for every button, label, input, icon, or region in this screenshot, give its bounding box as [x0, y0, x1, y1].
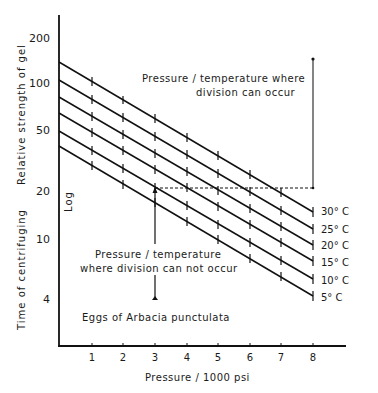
annotation-cannot-occur-line1: Pressure / temperature	[95, 249, 221, 260]
y-axis-title-upper: Relative strength of gel	[16, 44, 27, 185]
x-axis-title: Pressure / 1000 psi	[145, 372, 250, 383]
arrow-tail-icon	[312, 187, 315, 190]
legend-label-20c: 20° C	[321, 240, 349, 251]
line-25c	[59, 80, 313, 229]
species-label: Eggs of Arbacia punctulata	[82, 312, 230, 323]
line-30c	[59, 62, 313, 212]
annotation-can-occur-line1: Pressure / temperature where	[142, 73, 305, 84]
x-tick-label: 2	[116, 352, 130, 363]
annotation-can-occur-line2: division can occur	[196, 87, 295, 98]
x-tick-label: 6	[243, 352, 257, 363]
y-tick-label: 200	[20, 32, 50, 45]
arrow-head-icon	[152, 296, 158, 300]
chart-plot-area	[0, 0, 378, 393]
arrow-head-icon	[311, 57, 314, 60]
x-tick-label: 8	[306, 352, 320, 363]
line-15c	[59, 113, 313, 261]
legend-label-25c: 25° C	[321, 224, 349, 235]
x-tick-label: 3	[148, 352, 162, 363]
y-tick-label: 20	[20, 185, 50, 198]
y-axis-log-label: Log	[63, 191, 74, 212]
legend-label-15c: 15° C	[321, 257, 349, 268]
x-tick-label: 7	[274, 352, 288, 363]
legend-label-10c: 10° C	[321, 275, 349, 286]
x-tick-label: 5	[211, 352, 225, 363]
line-20c	[59, 97, 313, 245]
annotation-cannot-occur-line2: where division can not occur	[80, 263, 238, 274]
y-axis-title-lower: Time of centrifuging	[16, 209, 27, 330]
x-tick-label: 4	[180, 352, 194, 363]
legend-label-5c: 5° C	[321, 292, 343, 303]
x-tick-label: 1	[85, 352, 99, 363]
legend-label-30c: 30° C	[321, 206, 349, 217]
